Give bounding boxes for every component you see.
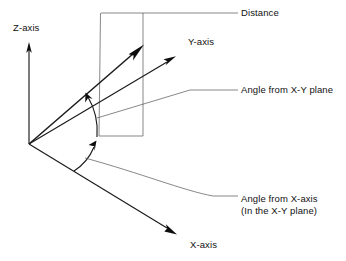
label-y-axis: Y-axis — [188, 36, 214, 48]
arrow-upright-icon — [129, 45, 144, 61]
azimuth-angle-arc — [74, 141, 97, 172]
y-axis — [29, 56, 176, 144]
label-distance: Distance — [241, 7, 279, 19]
angle-x-leader — [85, 158, 238, 196]
z-axis — [26, 42, 32, 144]
arrow-upright-icon — [164, 56, 177, 65]
x-axis-line — [29, 144, 167, 228]
angle-xy-leader-line — [97, 90, 238, 118]
coordinate-diagram — [0, 0, 346, 261]
distance-vector-line — [29, 53, 134, 144]
label-angle-from-x-axis: Angle from X-axis (In the X-Y plane) — [241, 193, 318, 217]
elevation-angle-arc — [85, 93, 97, 138]
label-z-axis: Z-axis — [13, 22, 39, 34]
arc-arrow-icon — [85, 93, 93, 103]
diagram-canvas: Distance Z-axis Y-axis Angle from X-Y pl… — [0, 0, 346, 261]
arrow-downright-icon — [164, 224, 177, 234]
angle-x-leader-line — [85, 158, 238, 196]
azimuth-arc-path — [74, 147, 94, 171]
elevation-arc-path — [88, 97, 97, 137]
label-x-axis: X-axis — [190, 239, 217, 251]
angle-xy-leader — [97, 90, 238, 118]
x-axis — [29, 144, 177, 235]
label-angle-from-x-axis-line1: Angle from X-axis — [241, 193, 318, 205]
reference-box — [99, 13, 238, 136]
label-angle-from-x-axis-line2: (In the X-Y plane) — [241, 205, 318, 217]
label-angle-from-xy-plane: Angle from X-Y plane — [241, 84, 333, 96]
